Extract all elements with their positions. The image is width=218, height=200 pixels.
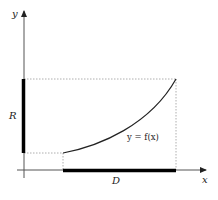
- guide-lines: [24, 79, 176, 170]
- domain-label: D: [111, 175, 120, 186]
- x-axis-label: x: [202, 174, 208, 185]
- y-axis-label: y: [11, 8, 18, 19]
- function-label: y = f(x): [126, 132, 159, 142]
- function-domain-range-diagram: y x R D y = f(x): [0, 0, 218, 200]
- function-curve: [63, 79, 176, 153]
- range-label: R: [8, 110, 17, 121]
